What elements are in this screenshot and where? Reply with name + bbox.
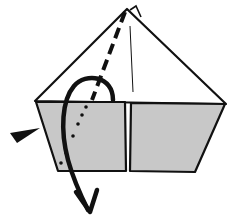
right-trapezoid-flap [130, 103, 225, 172]
push-pointer [10, 128, 40, 143]
origami-diagram [0, 0, 235, 221]
left-trapezoid-flap [36, 102, 126, 171]
top-triangle [35, 9, 226, 104]
arrow-head-icon [76, 190, 97, 212]
